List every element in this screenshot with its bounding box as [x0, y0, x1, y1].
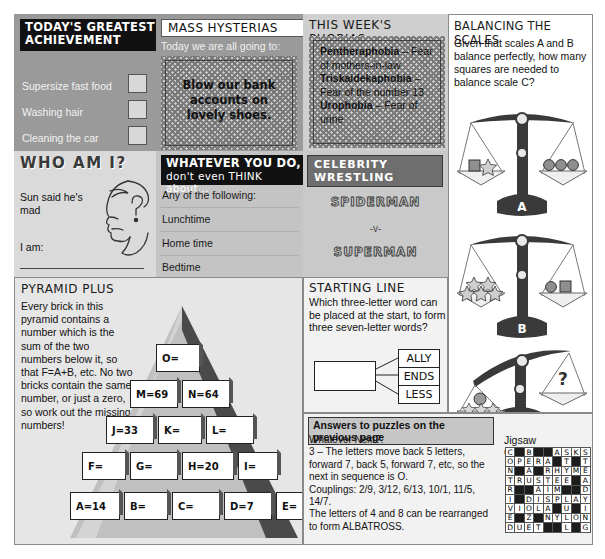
- hysterias-answer: Blow our bank accounts on lovely shoes.: [165, 60, 293, 123]
- pyramid-brick-L[interactable]: L=: [206, 416, 254, 444]
- pyramid-illustration: O= M=69 N=64 J=33 K= L= F= G= H=20 I= A=…: [70, 306, 300, 542]
- achievement-checkbox-0[interactable]: [128, 74, 147, 93]
- whatever-divider-1: [160, 231, 299, 232]
- pyramid-brick-G[interactable]: G=: [130, 452, 178, 480]
- puzzle-page: TODAY'S GREATEST ACHIEVEMENT Supersize f…: [0, 0, 605, 559]
- whoami-answer-rule[interactable]: [20, 268, 144, 269]
- whatever-item-2: Bedtime: [162, 261, 201, 273]
- whoami-clue: Sun said he's mad: [20, 191, 94, 216]
- panel-celebrity-wrestling: CELEBRITY WRESTLING SPIDERMAN -v- SUPERM…: [303, 151, 448, 277]
- pyramid-brick-B[interactable]: B=: [124, 492, 168, 520]
- panel-answers: Answers to puzzles on the previous page …: [303, 413, 593, 545]
- achievement-checkbox-1[interactable]: [128, 100, 147, 119]
- achievement-title-line1: TODAY'S GREATEST: [25, 21, 155, 34]
- pyramid-brick-N[interactable]: N=64: [182, 380, 230, 408]
- jigsaw-crossword-grid: CBASKSOPERATTNARHYMETRUSTEEARAIMDIDISPLA…: [506, 448, 591, 533]
- phobia-name-0: Pentheraphobia: [320, 45, 399, 57]
- wrestling-fighter-1: SPIDERMAN: [303, 195, 448, 209]
- pyramid-brick-A[interactable]: A=14: [70, 492, 120, 520]
- scale-a-illustration: A: [457, 101, 587, 219]
- panel-todays-greatest-achievement: TODAY'S GREATEST ACHIEVEMENT Supersize f…: [14, 14, 156, 151]
- pyramid-brick-J[interactable]: J=33: [106, 416, 154, 444]
- achievement-item-0: Supersize fast food: [22, 80, 112, 92]
- profile-face-question-icon: [98, 173, 154, 265]
- pyramid-brick-K[interactable]: K=: [158, 416, 202, 444]
- achievement-checkbox-2[interactable]: [128, 126, 147, 145]
- achievement-item-1: Washing hair: [22, 106, 83, 118]
- svg-text:A: A: [517, 200, 527, 214]
- pyramid-title: PYRAMID PLUS: [21, 282, 114, 296]
- scales-question: Given that scales A and B balance perfec…: [454, 37, 590, 89]
- hysterias-lead: Today we are all going to:: [161, 40, 280, 52]
- panel-this-weeks-phobias: THIS WEEK'S PHOBIAS Pentheraphobia – Fea…: [303, 14, 448, 151]
- panel-who-am-i: WHO AM I? Sun said he's mad I am:: [14, 151, 156, 277]
- pyramid-brick-F[interactable]: F=: [82, 452, 126, 480]
- panel-mass-hysterias: MASS HYSTERIAS Today we are all going to…: [156, 14, 303, 151]
- phobias-box: Pentheraphobia – Fear of mothers-in-law …: [309, 36, 445, 148]
- panel-balancing-the-scales: BALANCING THE SCALES Given that scales A…: [448, 14, 593, 413]
- hysterias-answer-box: Blow our bank accounts on lovely shoes.: [161, 56, 297, 150]
- whatever-item-1: Home time: [162, 237, 213, 249]
- panel-starting-line: STARTING LINE Which three-letter word ca…: [303, 277, 448, 413]
- answers-body: Whatever Next?: 3 – The letters move bac…: [309, 434, 491, 533]
- scale-c-illustration: ? C: [457, 333, 587, 413]
- whatever-divider-2: [160, 255, 299, 256]
- starting-answer-input[interactable]: [314, 361, 376, 391]
- whoami-answer-label: I am:: [20, 241, 43, 253]
- jigsaw-cell-8-8: G: [580, 522, 590, 532]
- achievement-item-2: Cleaning the car: [22, 132, 98, 144]
- pyramid-brick-M[interactable]: M=69: [130, 380, 178, 408]
- whatever-title-line1: WHATEVER YOU DO,: [166, 157, 303, 170]
- scale-b-illustration: B: [457, 223, 587, 341]
- achievement-title: TODAY'S GREATEST ACHIEVEMENT: [20, 19, 156, 51]
- pyramid-brick-E[interactable]: E=: [276, 492, 303, 520]
- whatever-lead: Any of the following:: [162, 189, 256, 201]
- hysterias-title: MASS HYSTERIAS: [161, 19, 303, 37]
- achievement-title-line2: ACHIEVEMENT: [25, 34, 155, 47]
- whatever-item-0: Lunchtime: [162, 213, 210, 225]
- pyramid-brick-C[interactable]: C=: [172, 492, 220, 520]
- wrestling-versus: -v-: [303, 223, 448, 234]
- starting-word-0: ALLY: [398, 349, 440, 368]
- panel-whatever-you-do: WHATEVER YOU DO, don't even THINK about.…: [156, 151, 303, 277]
- pyramid-brick-O[interactable]: O=: [156, 344, 200, 372]
- phobias-list: Pentheraphobia – Fear of mothers-in-law …: [313, 40, 441, 126]
- starting-word-2: LESS: [398, 385, 440, 404]
- pyramid-brick-I[interactable]: I=: [238, 452, 278, 480]
- pyramid-brick-D[interactable]: D=7: [224, 492, 272, 520]
- wrestling-fighter-2: SUPERMAN: [303, 245, 448, 259]
- panel-pyramid-plus: PYRAMID PLUS Every brick in this pyramid…: [14, 277, 303, 545]
- phobia-name-2: Urophobia: [320, 99, 373, 111]
- phobia-name-1: Triskaidekaphobia: [320, 72, 412, 84]
- pyramid-brick-H[interactable]: H=20: [182, 452, 234, 480]
- whatever-divider-0: [160, 207, 299, 208]
- starting-word-1: ENDS: [398, 367, 440, 386]
- whoami-title: WHO AM I?: [20, 154, 127, 172]
- whatever-title: WHATEVER YOU DO, don't even THINK about.…: [161, 155, 303, 185]
- wrestling-title: CELEBRITY WRESTLING: [307, 155, 443, 187]
- scale-c-unknown: ?: [558, 369, 568, 389]
